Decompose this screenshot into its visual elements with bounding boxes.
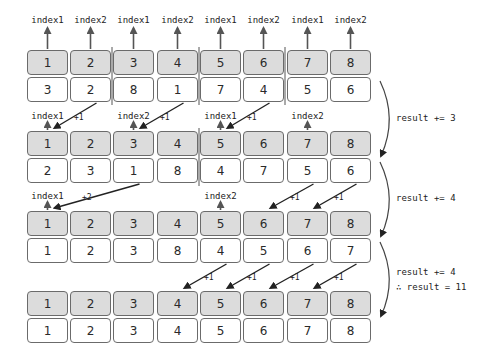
value-cell: 4 <box>200 158 241 183</box>
key-cell: 7 <box>287 291 328 316</box>
pointer-label: index1 <box>31 111 64 121</box>
value-cell: 7 <box>330 238 371 263</box>
value-cell: 3 <box>113 318 154 343</box>
value-cell: 6 <box>330 158 371 183</box>
value-cell: 2 <box>70 77 111 102</box>
value-cell: 2 <box>70 318 111 343</box>
value-cell: 5 <box>200 318 241 343</box>
value-cell: 3 <box>70 158 111 183</box>
key-cell: 5 <box>200 211 241 236</box>
value-cell: 6 <box>330 77 371 102</box>
value-cell: 7 <box>287 318 328 343</box>
key-cell: 1 <box>27 50 68 75</box>
move-count-label: +1 <box>160 113 170 122</box>
key-cell: 4 <box>157 131 198 156</box>
key-cell: 8 <box>330 50 371 75</box>
key-cell: 3 <box>113 211 154 236</box>
pointer-label: index1 <box>204 15 237 25</box>
key-cell: 4 <box>157 211 198 236</box>
value-cell: 2 <box>27 158 68 183</box>
key-cell: 1 <box>27 211 68 236</box>
key-cell: 6 <box>243 211 284 236</box>
result-note: result += 3 <box>396 113 456 123</box>
key-cell: 3 <box>113 50 154 75</box>
key-cell: 1 <box>27 131 68 156</box>
key-cell: 7 <box>287 131 328 156</box>
value-cell: 5 <box>243 238 284 263</box>
key-cell: 3 <box>113 131 154 156</box>
key-cell: 8 <box>330 291 371 316</box>
pointer-label: index2 <box>74 15 107 25</box>
step-transition-arrow-icon <box>380 162 389 236</box>
pointer-label: index2 <box>247 15 280 25</box>
value-cell: 8 <box>330 318 371 343</box>
key-cell: 7 <box>287 211 328 236</box>
key-cell: 4 <box>157 50 198 75</box>
key-cell: 2 <box>70 131 111 156</box>
key-cell: 5 <box>200 131 241 156</box>
value-cell: 1 <box>113 158 154 183</box>
value-cell: 8 <box>113 77 154 102</box>
move-arrow-icon <box>55 184 140 208</box>
value-cell: 7 <box>200 77 241 102</box>
key-cell: 8 <box>330 211 371 236</box>
result-note: result += 4 <box>396 193 456 203</box>
value-cell: 3 <box>113 238 154 263</box>
merge-sort-inversion-diagram: 1234567832817456index1index2index1index2… <box>0 0 479 362</box>
value-cell: 2 <box>70 238 111 263</box>
value-cell: 5 <box>287 158 328 183</box>
move-count-label: +1 <box>290 273 300 282</box>
value-cell: 5 <box>287 77 328 102</box>
pointer-label: index2 <box>161 15 194 25</box>
pointer-label: index1 <box>31 191 64 201</box>
key-cell: 4 <box>157 291 198 316</box>
move-count-label: +1 <box>74 113 84 122</box>
key-cell: 8 <box>330 131 371 156</box>
move-count-label: +1 <box>247 273 257 282</box>
move-count-label: +1 <box>334 193 344 202</box>
pointer-label: index2 <box>291 111 324 121</box>
step-transition-arrow-icon <box>380 242 389 316</box>
value-cell: 4 <box>200 238 241 263</box>
key-cell: 2 <box>70 291 111 316</box>
final-result: ∴ result = 11 <box>396 282 466 292</box>
key-cell: 5 <box>200 50 241 75</box>
value-cell: 6 <box>243 318 284 343</box>
pointer-label: index1 <box>31 15 64 25</box>
pointer-label: index1 <box>204 111 237 121</box>
step-transition-arrow-icon <box>380 81 389 156</box>
move-count-label: +1 <box>204 273 214 282</box>
move-count-label: +1 <box>290 193 300 202</box>
value-cell: 8 <box>157 158 198 183</box>
key-cell: 2 <box>70 211 111 236</box>
value-cell: 1 <box>157 77 198 102</box>
key-cell: 7 <box>287 50 328 75</box>
move-count-label: +1 <box>334 273 344 282</box>
key-cell: 3 <box>113 291 154 316</box>
pointer-label: index1 <box>291 15 324 25</box>
value-cell: 6 <box>287 238 328 263</box>
key-cell: 6 <box>243 50 284 75</box>
key-cell: 6 <box>243 291 284 316</box>
move-count-label: +2 <box>82 193 92 202</box>
value-cell: 4 <box>157 318 198 343</box>
value-cell: 7 <box>243 158 284 183</box>
pointer-label: index1 <box>117 15 150 25</box>
pointer-label: index2 <box>204 191 237 201</box>
key-cell: 1 <box>27 291 68 316</box>
pointer-label: index2 <box>334 15 367 25</box>
value-cell: 1 <box>27 238 68 263</box>
key-cell: 6 <box>243 131 284 156</box>
result-note: result += 4 <box>396 267 456 277</box>
key-cell: 5 <box>200 291 241 316</box>
key-cell: 2 <box>70 50 111 75</box>
pointer-label: index2 <box>117 111 150 121</box>
value-cell: 8 <box>157 238 198 263</box>
value-cell: 1 <box>27 318 68 343</box>
value-cell: 3 <box>27 77 68 102</box>
value-cell: 4 <box>243 77 284 102</box>
move-count-label: +1 <box>247 113 257 122</box>
